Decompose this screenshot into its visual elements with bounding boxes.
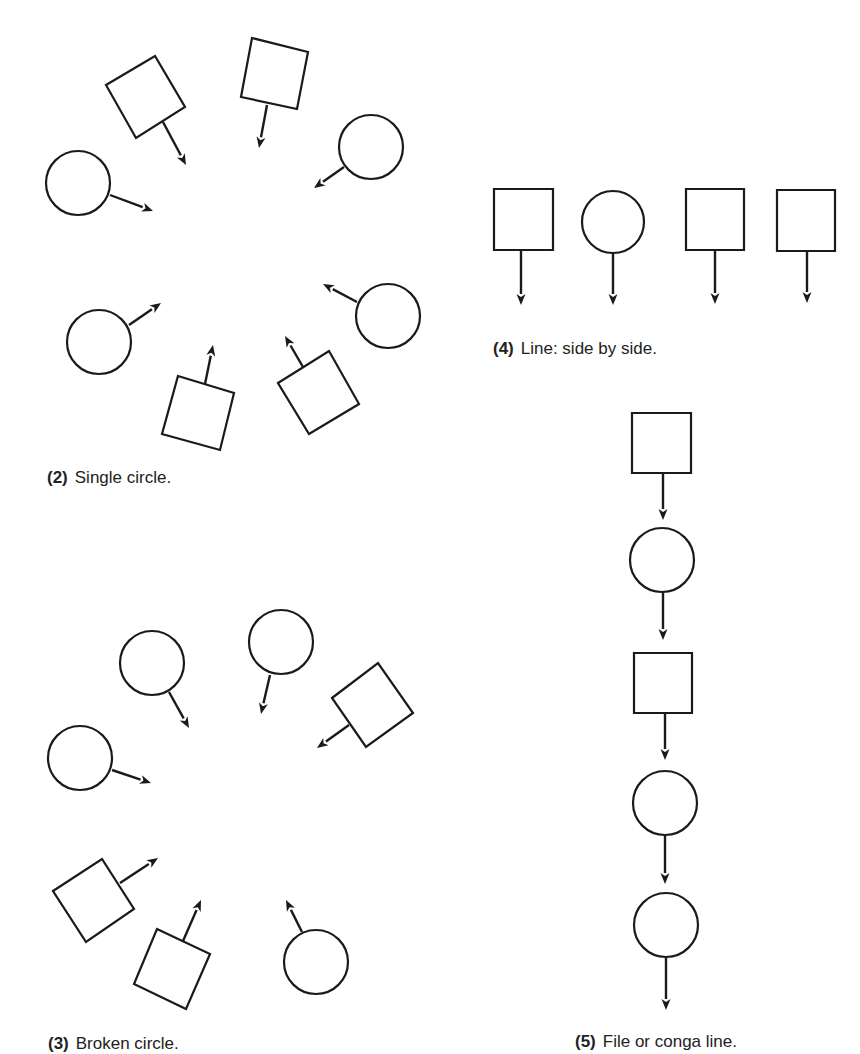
square-person-icon — [53, 859, 134, 942]
arrowhead-icon — [517, 294, 526, 305]
square-person-icon — [134, 929, 210, 1009]
facing-arrow-line — [110, 195, 143, 207]
facing-arrow-line — [183, 910, 197, 941]
arrowhead-icon — [659, 629, 668, 640]
figure-single-circle — [46, 38, 420, 450]
person-square — [686, 189, 744, 304]
arrowhead-icon — [317, 738, 329, 748]
person-square — [53, 858, 158, 942]
arrowhead-icon — [192, 900, 201, 912]
circle-person-icon — [582, 191, 644, 253]
circle-person-icon — [67, 310, 131, 374]
figure-broken-circle — [48, 610, 413, 1009]
figure-caption: Line: side by side. — [521, 339, 657, 358]
arrowhead-icon — [803, 292, 812, 303]
circle-person-icon — [46, 151, 110, 215]
arrowhead-icon — [661, 749, 670, 760]
arrowhead-icon — [662, 999, 671, 1010]
person-square — [278, 336, 359, 434]
circle-person-icon — [634, 893, 698, 957]
facing-arrow-line — [326, 725, 349, 742]
caption-broken-circle: (3)Broken circle. — [48, 1035, 179, 1052]
arrowhead-icon — [149, 303, 161, 313]
figure-number: (3) — [48, 1034, 69, 1053]
person-circle — [249, 610, 313, 714]
circle-person-icon — [630, 528, 694, 592]
circle-person-icon — [48, 726, 112, 790]
circle-person-icon — [339, 115, 403, 179]
circle-person-icon — [633, 771, 697, 835]
person-circle — [323, 284, 420, 348]
facing-arrow-line — [291, 910, 302, 932]
person-square — [134, 900, 210, 1009]
person-square — [777, 190, 835, 303]
facing-arrow-line — [261, 105, 267, 137]
figure-line-side-by-side — [494, 189, 835, 305]
square-person-icon — [494, 189, 553, 250]
square-person-icon — [332, 663, 413, 747]
person-circle — [314, 115, 403, 188]
arrowhead-icon — [139, 775, 151, 784]
person-square — [634, 653, 692, 760]
facing-arrow-line — [112, 770, 141, 780]
figure-caption: Single circle. — [75, 468, 171, 487]
arrowhead-icon — [206, 345, 215, 357]
arrowhead-icon — [146, 858, 158, 868]
arrowhead-icon — [659, 509, 668, 520]
circle-person-icon — [249, 610, 313, 674]
circle-person-icon — [120, 631, 184, 695]
person-circle — [630, 528, 694, 640]
person-circle — [284, 900, 348, 994]
circle-person-icon — [356, 284, 420, 348]
person-circle — [582, 191, 644, 305]
person-square — [317, 663, 413, 748]
person-circle — [634, 893, 698, 1010]
square-person-icon — [241, 38, 308, 109]
arrowhead-icon — [257, 136, 266, 148]
person-square — [162, 345, 234, 450]
facing-arrow-line — [333, 289, 357, 302]
facing-arrow-line — [129, 309, 152, 325]
facing-arrow-line — [120, 864, 149, 883]
person-circle — [633, 771, 697, 884]
arrowhead-icon — [711, 293, 720, 304]
person-square — [494, 189, 553, 305]
figure-number: (5) — [575, 1032, 596, 1051]
square-person-icon — [162, 376, 234, 450]
figure-file-conga-line — [630, 413, 698, 1010]
square-person-icon — [278, 351, 359, 434]
person-square — [241, 38, 308, 148]
square-person-icon — [632, 413, 691, 473]
facing-arrow-line — [263, 675, 270, 703]
figure-number: (2) — [47, 468, 68, 487]
person-circle — [67, 303, 161, 374]
square-person-icon — [686, 189, 744, 250]
person-circle — [48, 726, 151, 790]
formation-diagram-canvas — [0, 0, 860, 1054]
arrowhead-icon — [609, 294, 618, 305]
person-square — [632, 413, 691, 520]
person-circle — [46, 151, 153, 215]
square-person-icon — [634, 653, 692, 713]
figure-caption: Broken circle. — [76, 1034, 179, 1053]
caption-single-circle: (2)Single circle. — [47, 469, 171, 486]
caption-line-side-by-side: (4)Line: side by side. — [493, 340, 657, 357]
square-person-icon — [777, 190, 835, 251]
facing-arrow-line — [291, 346, 303, 367]
arrowhead-icon — [141, 203, 153, 211]
figure-number: (4) — [493, 339, 514, 358]
square-person-icon — [106, 56, 185, 138]
facing-arrow-line — [169, 692, 184, 718]
arrowhead-icon — [661, 873, 670, 884]
facing-arrow-line — [163, 122, 181, 155]
circle-person-icon — [284, 930, 348, 994]
arrowhead-icon — [259, 702, 268, 714]
facing-arrow-line — [323, 167, 344, 182]
arrowhead-icon — [314, 178, 326, 188]
person-square — [106, 56, 186, 165]
facing-arrow-line — [205, 356, 211, 384]
caption-file-conga-line: (5)File or conga line. — [575, 1033, 737, 1050]
person-circle — [120, 631, 189, 728]
figure-caption: File or conga line. — [603, 1032, 737, 1051]
